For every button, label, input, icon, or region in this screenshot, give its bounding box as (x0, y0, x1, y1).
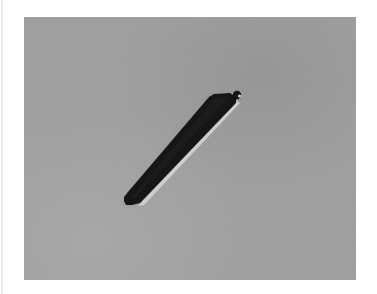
rod-knob (233, 91, 241, 99)
micrograph-svg (24, 17, 356, 280)
micrograph-photo (24, 17, 356, 280)
left-edge-line (1, 0, 3, 294)
